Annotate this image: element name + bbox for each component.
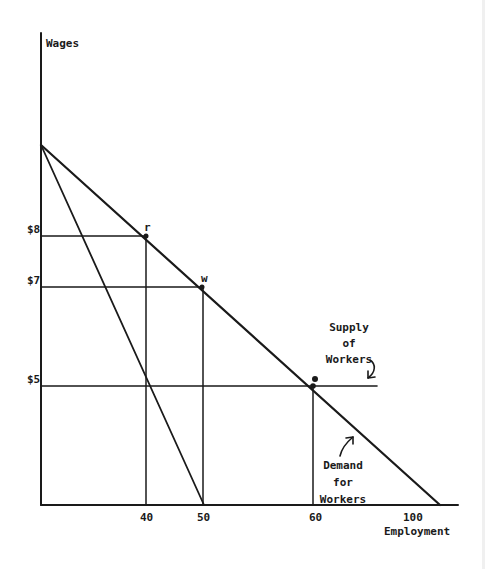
y-tick-7: $7: [27, 274, 40, 287]
y-tick-8: $8: [27, 223, 40, 236]
x-tick-60: 60: [309, 511, 322, 524]
demand-annotation-line2: for: [313, 476, 373, 489]
supply-annotation-line2: of: [314, 337, 384, 350]
marginal-line: [41, 145, 204, 505]
point-r-label: r: [144, 221, 151, 234]
y-tick-5: $5: [27, 373, 40, 386]
chart: Wages Employment $8 $7 $5 40 50 60 100 r…: [0, 0, 485, 569]
demand-arrow-icon: [340, 437, 353, 456]
x-tick-100: 100: [403, 511, 423, 524]
y-axis-label: Wages: [46, 37, 79, 50]
x-tick-40: 40: [140, 511, 153, 524]
point-r-marker: [144, 234, 149, 239]
x-tick-50: 50: [197, 511, 210, 524]
point-w-label: w: [201, 272, 208, 285]
chart-plot: [0, 0, 485, 569]
point-e-dot: [312, 376, 318, 382]
point-e-marker: [310, 383, 316, 389]
demand-annotation: Demand for Workers: [313, 459, 373, 506]
point-w-marker: [200, 285, 205, 290]
x-axis-label: Employment: [384, 525, 450, 538]
supply-annotation-line3: Workers: [314, 353, 384, 366]
supply-annotation: Supply of Workers: [314, 321, 384, 366]
demand-annotation-line1: Demand: [313, 459, 373, 472]
supply-annotation-line1: Supply: [314, 321, 384, 334]
demand-annotation-line3: Workers: [313, 493, 373, 506]
